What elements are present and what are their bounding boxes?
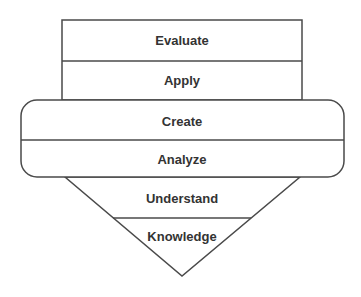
layer-label-understand: Understand (82, 191, 282, 207)
layer-label-knowledge: Knowledge (82, 229, 282, 245)
layer-label-apply: Apply (82, 73, 282, 89)
layer-label-evaluate: Evaluate (82, 33, 282, 49)
layer-label-analyze: Analyze (82, 152, 282, 168)
layer-label-create: Create (82, 114, 282, 130)
